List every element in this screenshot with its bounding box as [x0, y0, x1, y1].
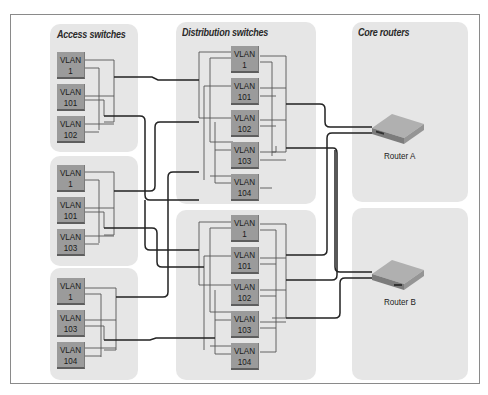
distribution-vlan-box: VLAN103 — [231, 142, 259, 169]
access-vlan-box: VLAN103 — [57, 229, 85, 256]
access-vlan-box: VLAN1 — [57, 165, 85, 192]
access-vlan-box: VLAN1 — [57, 278, 85, 305]
router-a-icon — [370, 112, 426, 146]
router-a-label: Router A — [384, 150, 415, 161]
distribution-vlan-box: VLAN104 — [231, 174, 259, 201]
access-vlan-box: VLAN1 — [57, 52, 85, 79]
router-b-icon — [370, 258, 426, 292]
access-vlan-box: VLAN101 — [57, 197, 85, 224]
router-b-label: Router B — [384, 296, 416, 307]
access-vlan-box: VLAN102 — [57, 116, 85, 143]
distribution-vlan-box: VLAN101 — [231, 247, 259, 274]
access-vlan-box: VLAN101 — [57, 84, 85, 111]
distribution-vlan-box: VLAN101 — [231, 78, 259, 105]
distribution-vlan-box: VLAN102 — [231, 279, 259, 306]
access-vlan-box: VLAN104 — [57, 342, 85, 369]
distribution-vlan-box: VLAN103 — [231, 311, 259, 338]
distribution-vlan-box: VLAN1 — [231, 46, 259, 73]
access-vlan-box: VLAN103 — [57, 310, 85, 337]
distribution-vlan-box: VLAN1 — [231, 215, 259, 242]
distribution-vlan-box: VLAN104 — [231, 343, 259, 370]
distribution-vlan-box: VLAN102 — [231, 110, 259, 137]
